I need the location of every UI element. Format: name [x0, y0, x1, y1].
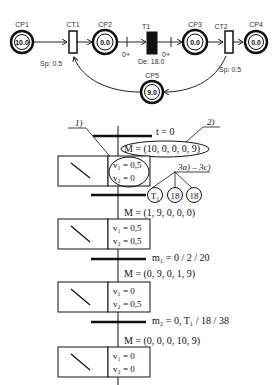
step-1-v2: v₂ = 0 [113, 173, 135, 183]
condition-1: m₁ = 0 / 2 / 20 [152, 252, 209, 263]
transition-ct2-speed: Sp: 0.5 [219, 66, 241, 74]
step-1-v1: v₁ = 0,5 [113, 160, 142, 170]
step-2: v₁ = 0,5 v₂ = 0,5 [58, 219, 150, 249]
annotation-3-branch-c [175, 172, 192, 188]
step-4: v₁ = 0 v₂ = 0 [58, 347, 150, 377]
t1-output-delay-label: 0+ [162, 51, 170, 58]
marking-1: M = (1, 9, 0, 0, 0) [124, 207, 195, 219]
step-1: v₁ = 0,5 v₂ = 0 [58, 156, 150, 187]
place-cp2-tokens: 0.0 [100, 39, 110, 46]
arc-cp5-ct1 [74, 57, 140, 92]
place-cp1-label: CP1 [15, 21, 29, 28]
marking-3: M = (0, 0, 0, 10, 9) [124, 335, 200, 347]
place-cp3-label: CP3 [188, 21, 202, 28]
place-cp4-label: CP4 [249, 21, 263, 28]
step-3: v₁ = 0 v₂ = 0,5 [58, 282, 150, 312]
annotation-circle-18b-label: 18 [190, 191, 200, 201]
annotation-3: 3a) – 3c) [177, 162, 211, 172]
place-cp1: 10.0 CP1 [11, 21, 33, 53]
transition-ct2: CT2 Sp: 0.5 [214, 23, 241, 74]
step-2-v2: v₂ = 0,5 [113, 236, 142, 246]
place-cp5: 9.0 CP5 [141, 72, 163, 103]
petri-net: 0+ 0+ 10.0 CP1 0.0 CP2 0.0 CP3 0.0 CP4 [11, 21, 267, 103]
step-4-v1: v₁ = 0 [113, 351, 135, 361]
place-cp5-tokens: 9.0 [147, 89, 157, 96]
step-4-v2: v₂ = 0 [113, 364, 135, 374]
place-cp3-tokens: 0.0 [190, 39, 200, 46]
transition-t1-delay: De: 18.0 [138, 58, 165, 65]
annotation-circle-t1: T₁ [148, 188, 163, 203]
step-3-v2: v₂ = 0,5 [113, 299, 142, 309]
annotation-circle-18a: 18 [168, 188, 183, 203]
place-cp2: 0.0 CP2 [93, 21, 117, 54]
transition-ct1: CT1 Sp: 0.5 [40, 21, 80, 68]
place-cp3: 0.0 CP3 [183, 21, 207, 54]
annotation-circle-18b: 18 [187, 188, 202, 203]
annotation-2: 2) [207, 117, 215, 127]
condition-2: m₂ = 0, T₁ / 18 / 38 [152, 315, 229, 326]
transition-ct1-label: CT1 [66, 21, 79, 28]
step-3-v1: v₁ = 0 [113, 286, 135, 296]
initial-time-label: t = 0 [156, 126, 174, 137]
place-cp1-tokens: 10.0 [15, 39, 29, 46]
place-cp2-label: CP2 [98, 21, 112, 28]
annotation-2-leader [186, 127, 203, 142]
annotation-3-branch-a [152, 172, 175, 188]
transition-t1-label: T1 [142, 23, 150, 30]
step-2-v1: v₁ = 0,5 [113, 223, 142, 233]
arc-ct2-cp5 [164, 56, 226, 92]
annotation-circle-t1-label: T₁ [151, 191, 160, 201]
t1-input-delay-label: 0+ [122, 51, 130, 58]
place-cp4-tokens: 0.0 [251, 39, 261, 46]
place-cp5-label: CP5 [145, 72, 159, 79]
transition-t1: T1 De: 18.0 [138, 23, 165, 65]
marking-2: M = (0, 9, 0, 1, 9) [124, 268, 195, 280]
transition-ct1-speed: Sp: 0.5 [40, 60, 62, 68]
figure-canvas: 0+ 0+ 10.0 CP1 0.0 CP2 0.0 CP3 0.0 CP4 [0, 0, 273, 385]
annotation-circle-18a-label: 18 [171, 191, 181, 201]
state-sequence-diagram: t = 0 2) M = (10, 0, 0, 0, 9) 1) v₁ = 0,… [58, 117, 229, 385]
place-cp4: 0.0 CP4 [245, 21, 267, 53]
annotation-1-leader [86, 128, 113, 160]
transition-ct2-label: CT2 [214, 23, 227, 30]
marking-0: M = (10, 0, 0, 0, 9) [124, 143, 200, 155]
annotation-1: 1) [75, 118, 83, 128]
